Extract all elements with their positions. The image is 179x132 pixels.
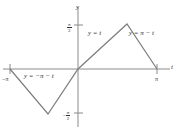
fraction-denominator: 2 [67,28,72,33]
tick-label-pi-over-2: π 2 [67,18,72,34]
tick-label-pi: π [155,76,158,82]
fraction-pi-over-2: π 2 [67,22,72,34]
plot-canvas [0,0,179,132]
equation-label-right-branch: y = π − t [129,30,154,37]
t-axis-label: t [171,64,173,71]
fraction-pi-over-2-negative: π 2 [66,110,71,122]
equation-label-middle-branch: y = t [88,30,101,37]
fraction-denominator: 2 [66,116,71,121]
graph-figure: y t −π π π 2 − π 2 y = −π − t y = t y = … [0,0,179,132]
tick-label-neg-pi: −π [2,76,8,82]
equation-label-left-branch: y = −π − t [24,73,54,80]
tick-label-neg-pi-over-2: − π 2 [63,106,70,122]
y-axis-label: y [76,4,79,11]
